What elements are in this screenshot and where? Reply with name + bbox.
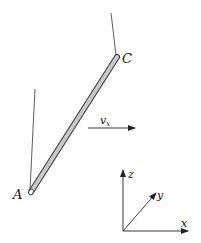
axis-label-z: z — [127, 168, 134, 181]
rod-diagram: A C vx z y x — [0, 0, 201, 243]
string-c — [111, 13, 116, 55]
axis-label-y: y — [156, 189, 164, 202]
velocity-label: vx — [100, 114, 110, 128]
axis-label-x: x — [181, 217, 188, 230]
string-a — [30, 89, 35, 190]
label-c: C — [122, 51, 132, 66]
label-a: A — [12, 187, 22, 202]
